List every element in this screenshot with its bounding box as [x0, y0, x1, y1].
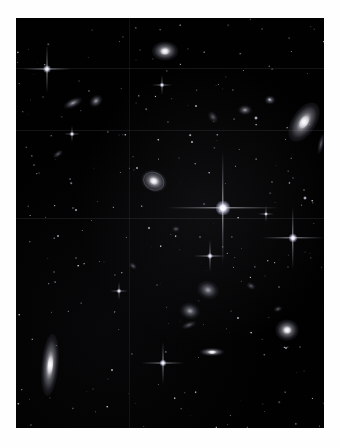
detector-seam-vertical-0: [129, 18, 130, 428]
astronomical-image-page: Deep-field astronomical image of a galax…: [0, 0, 339, 448]
detector-seam-horizontal-0: [16, 68, 324, 69]
deep-field-image: [16, 18, 324, 428]
night-sky-background: [16, 18, 324, 428]
detector-seam-horizontal-1: [16, 130, 324, 131]
detector-seam-horizontal-2: [16, 218, 324, 219]
